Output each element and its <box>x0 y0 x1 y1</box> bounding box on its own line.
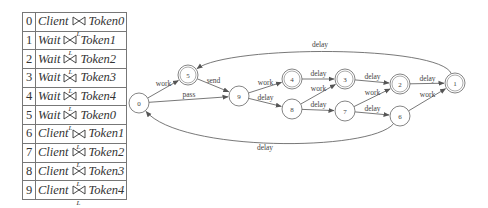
edge-label: work <box>258 78 274 87</box>
node-label: 1 <box>453 80 457 88</box>
edge-label: delay <box>310 100 326 109</box>
edge-label: delay <box>257 93 273 102</box>
edge-2-to-1 <box>410 83 444 84</box>
edge-label: send <box>207 76 221 85</box>
state-node-8: 8 <box>282 99 302 119</box>
state-node-6: 6 <box>390 106 410 126</box>
node-label: 0 <box>137 100 141 108</box>
edge-label: pass <box>183 90 196 99</box>
edge-label: delay <box>364 104 380 113</box>
edge-label: work <box>365 88 381 97</box>
state-node-0: 0 <box>129 93 149 113</box>
edge-label: delay <box>257 143 273 152</box>
state-node-4: 4 <box>282 69 302 89</box>
edge-label: delay <box>364 72 380 81</box>
state-node-7: 7 <box>335 101 355 121</box>
edge-label: delay <box>310 69 326 78</box>
node-label: 9 <box>237 93 241 101</box>
edge-label: work <box>420 90 436 99</box>
node-label: 8 <box>290 106 294 114</box>
edge-6-to-0 <box>146 111 394 143</box>
state-node-3: 3 <box>335 69 355 89</box>
state-node-5: 5 <box>178 65 198 85</box>
node-label: 3 <box>343 76 347 84</box>
edge-label: work <box>156 79 172 88</box>
node-label: 2 <box>398 81 402 89</box>
edge-label: delay <box>419 74 435 83</box>
edge-label: delay <box>312 40 328 49</box>
state-node-2: 2 <box>390 74 410 94</box>
node-label: 4 <box>290 76 294 84</box>
edge-8-to-7 <box>302 109 334 110</box>
node-label: 7 <box>343 108 347 116</box>
node-label: 5 <box>186 72 190 80</box>
edge-label: work <box>311 84 327 93</box>
node-label: 6 <box>398 113 402 121</box>
state-node-9: 9 <box>229 86 249 106</box>
state-node-1: 1 <box>445 73 465 93</box>
state-graph: workpasssendworkdelaydelayworkdelaydelay… <box>0 0 488 208</box>
